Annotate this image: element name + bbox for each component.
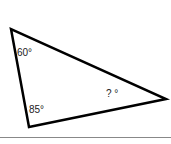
angle-label-right: ? ° xyxy=(106,88,118,99)
triangle-diagram: 60° 85° ? ° xyxy=(0,0,171,144)
angle-label-bottom: 85° xyxy=(29,104,44,115)
angle-label-top-left: 60° xyxy=(17,47,32,58)
